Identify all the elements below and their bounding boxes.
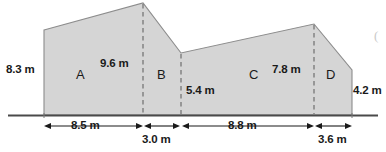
section-label-d: D	[326, 68, 335, 81]
height-label-valley: 5.4 m	[186, 85, 214, 97]
section-label-c: C	[249, 68, 258, 81]
width-label-b: 3.0 m	[142, 134, 170, 146]
width-label-c: 8.8 m	[228, 120, 256, 132]
height-label-right-wall: 4.2 m	[353, 85, 381, 97]
width-label-d: 3.6 m	[318, 134, 346, 146]
height-label-second-peak: 7.8 m	[272, 64, 300, 76]
cropped-edge-glyph: (	[374, 28, 378, 44]
width-label-a: 8.5 m	[71, 120, 99, 132]
building-elevation-figure: 8.3 m 9.6 m 5.4 m 7.8 m 4.2 m A B C D 8.…	[0, 0, 386, 152]
height-label-left-wall: 8.3 m	[6, 64, 34, 76]
building-silhouette	[44, 3, 352, 115]
section-label-a: A	[76, 68, 85, 81]
height-label-first-peak: 9.6 m	[100, 58, 128, 70]
section-label-b: B	[157, 68, 166, 81]
